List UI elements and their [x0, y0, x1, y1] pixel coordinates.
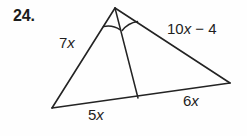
label-left-side: 7x: [59, 34, 75, 51]
label-base-right: 6x: [183, 92, 199, 109]
geometry-problem-figure: 24. 7x 10x − 4 5x 6x: [0, 0, 247, 136]
label-right-side: 10x − 4: [167, 20, 217, 37]
label-base-left-variable: x: [96, 106, 104, 123]
label-base-left: 5x: [88, 106, 104, 123]
label-right-side-suffix: − 4: [191, 20, 216, 37]
label-base-right-variable: x: [191, 92, 199, 109]
angle-arc-right-icon: [122, 22, 137, 31]
label-left-side-variable: x: [67, 34, 75, 51]
angle-arc-left-icon: [104, 26, 121, 30]
triangle-side-left: [52, 8, 115, 108]
label-right-side-coefficient: 10: [167, 20, 184, 37]
triangle-side-base: [52, 83, 230, 108]
